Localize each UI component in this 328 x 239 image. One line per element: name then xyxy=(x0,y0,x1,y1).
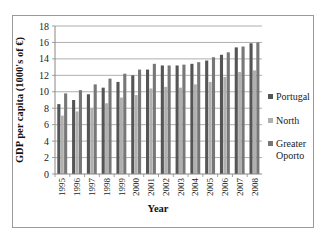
x-tick-label: 1998 xyxy=(102,178,112,197)
x-tick-label: 1997 xyxy=(87,178,97,197)
x-tick-label: 2008 xyxy=(250,178,260,197)
bar-greater-oporto xyxy=(153,64,156,174)
bar-greater-oporto xyxy=(242,47,245,174)
legend-swatch-north xyxy=(268,118,273,123)
bar-portugal xyxy=(205,61,208,174)
bar-north xyxy=(209,82,212,174)
bar-greater-oporto xyxy=(123,74,126,174)
x-tick-label: 2002 xyxy=(161,178,171,196)
bar-greater-oporto xyxy=(212,57,215,174)
x-tick-label: 2003 xyxy=(176,178,186,197)
y-tick-label: 2 xyxy=(44,152,49,163)
bar-portugal xyxy=(102,88,105,174)
bar-greater-oporto xyxy=(64,93,67,174)
bar-north xyxy=(61,116,64,174)
bar-north xyxy=(149,88,152,174)
bar-north xyxy=(179,88,182,174)
legend-label-north: North xyxy=(276,115,299,126)
x-tick-label: 2000 xyxy=(131,178,141,197)
bar-north xyxy=(194,84,197,174)
bar-portugal xyxy=(72,100,75,174)
legend-label-greater-oporto-2: Oporto xyxy=(276,150,304,161)
bar-portugal xyxy=(116,82,119,174)
x-tick-label: 1995 xyxy=(57,178,67,197)
bar-greater-oporto xyxy=(182,65,185,174)
bar-greater-oporto xyxy=(108,79,111,174)
y-tick-label: 6 xyxy=(44,119,49,130)
x-tick-label: 2004 xyxy=(190,178,200,197)
x-tick-label: 1999 xyxy=(117,178,127,197)
bar-portugal xyxy=(220,55,223,174)
y-tick-label: 18 xyxy=(39,21,49,32)
x-tick-label: 1996 xyxy=(72,178,82,197)
x-axis-title: Year xyxy=(148,203,169,214)
bar-north xyxy=(253,70,256,174)
bar-portugal xyxy=(176,65,179,174)
bar-chart: 024681012141618 199519961997199819992000… xyxy=(0,0,328,239)
bar-north xyxy=(75,112,78,174)
x-tick-label: 2006 xyxy=(220,178,230,197)
bar-greater-oporto xyxy=(138,70,141,174)
bar-portugal xyxy=(250,43,253,174)
legend-swatch-greater-oporto xyxy=(268,141,273,146)
bar-greater-oporto xyxy=(227,52,230,174)
bar-portugal xyxy=(131,75,134,174)
legend-swatch-portugal xyxy=(268,94,273,99)
y-tick-label: 14 xyxy=(39,53,49,64)
bar-north xyxy=(238,72,241,174)
bar-greater-oporto xyxy=(79,90,82,174)
bar-north xyxy=(164,87,167,174)
y-tick-label: 12 xyxy=(39,70,49,81)
bar-greater-oporto xyxy=(94,84,97,174)
x-tick-label: 2007 xyxy=(235,178,245,197)
y-tick-label: 10 xyxy=(39,86,49,97)
bar-portugal xyxy=(161,65,164,174)
bar-north xyxy=(135,95,138,174)
y-tick-label: 8 xyxy=(44,103,49,114)
bar-greater-oporto xyxy=(197,62,200,174)
y-axis-title: GDP per capita (1000's of €) xyxy=(14,36,26,163)
bar-portugal xyxy=(190,64,193,174)
x-tick-label: 2005 xyxy=(205,178,215,197)
legend-label-portugal: Portugal xyxy=(276,91,310,102)
bar-greater-oporto xyxy=(168,65,171,174)
legend: Portugal North Greater Oporto xyxy=(268,91,310,161)
bar-greater-oporto xyxy=(256,42,259,174)
bar-portugal xyxy=(87,94,90,174)
gridlines xyxy=(55,26,262,158)
y-axis-ticks: 024681012141618 xyxy=(39,21,55,180)
y-tick-label: 4 xyxy=(44,136,49,147)
bar-north xyxy=(120,98,123,174)
x-axis-ticks: 1995199619971998199920002001200220032004… xyxy=(55,174,260,196)
x-tick-label: 2001 xyxy=(146,178,156,196)
bar-portugal xyxy=(146,70,149,174)
bar-portugal xyxy=(57,104,60,174)
bar-north xyxy=(90,108,93,174)
y-tick-label: 16 xyxy=(39,37,49,48)
legend-label-greater-oporto-1: Greater xyxy=(276,138,307,149)
bar-north xyxy=(223,77,226,174)
y-tick-label: 0 xyxy=(44,169,49,180)
bar-north xyxy=(105,103,108,174)
bar-portugal xyxy=(235,47,238,174)
